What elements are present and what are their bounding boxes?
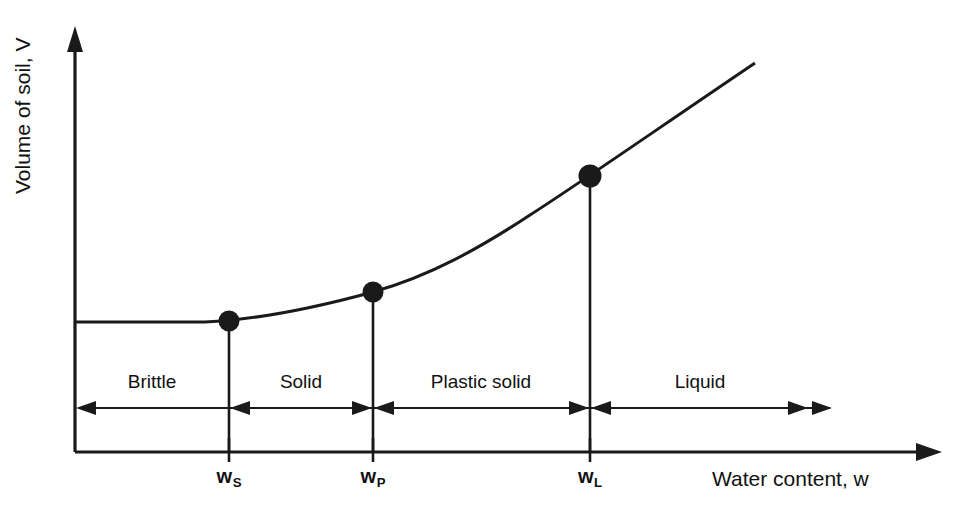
y-axis-arrowhead — [67, 26, 83, 52]
limit-drop-lines — [229, 176, 590, 462]
x-axis-arrowhead — [916, 443, 942, 461]
region-label-liquid: Liquid — [675, 372, 726, 391]
y-axis-title: Volume of soil, V — [12, 150, 33, 194]
tick-label-plastic-limit: wP — [361, 466, 386, 486]
region-label-plastic-solid: Plastic solid — [431, 372, 531, 391]
region-label-solid: Solid — [280, 372, 322, 391]
arrowhead-liquid-left — [591, 401, 611, 415]
soil-volume-water-content-figure: Brittle Solid Plastic solid Liquid wS wP… — [0, 0, 976, 514]
tick-label-sub-wp: P — [377, 475, 386, 490]
arrowhead-liquid-right-outer — [812, 401, 832, 415]
arrowhead-liquid-right-inner — [788, 401, 808, 415]
tick-label-base-wl: w — [578, 465, 594, 487]
limit-markers — [219, 165, 602, 332]
volume-curve-group — [75, 63, 755, 322]
arrowhead-plastic-left — [374, 401, 394, 415]
tick-label-sub-wl: L — [594, 475, 602, 490]
marker-dot-shrinkage-limit — [219, 311, 240, 332]
volume-of-soil-curve — [75, 63, 755, 322]
axes-group — [67, 26, 942, 461]
arrowhead-brittle-left — [76, 401, 96, 415]
tick-label-base-wp: w — [361, 465, 377, 487]
region-label-brittle: Brittle — [128, 372, 177, 391]
tick-label-liquid-limit: wL — [578, 466, 602, 486]
x-axis-title: Water content, w — [712, 468, 869, 489]
tick-label-sub-ws: S — [233, 475, 242, 490]
tick-label-base-ws: w — [217, 465, 233, 487]
arrowhead-solid-left — [230, 401, 250, 415]
diagram-canvas — [0, 0, 976, 514]
tick-label-shrinkage-limit: wS — [217, 466, 242, 486]
marker-dot-plastic-limit — [363, 282, 384, 303]
marker-dot-liquid-limit — [579, 165, 602, 188]
arrowhead-solid-right — [352, 401, 372, 415]
region-dimension-arrows — [76, 401, 832, 415]
arrowhead-plastic-right — [569, 401, 589, 415]
